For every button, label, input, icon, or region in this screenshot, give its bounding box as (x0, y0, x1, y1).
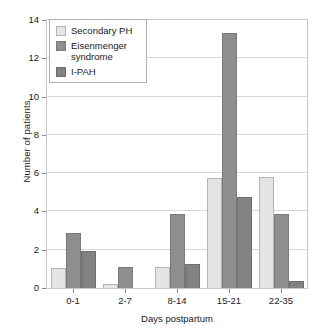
y-tick: 8 (0, 135, 46, 136)
x-tick: 0-1 (47, 289, 99, 303)
bar-group (203, 20, 255, 288)
bar-chart: Number of patients 02468101214 0-12-78-1… (0, 0, 315, 333)
x-tick-label: 0-1 (47, 295, 99, 306)
legend-swatch-icon (56, 67, 66, 77)
y-tick: 6 (0, 173, 46, 174)
x-tick-mark (229, 289, 230, 293)
y-tick: 14 (0, 20, 46, 21)
y-tick: 4 (0, 211, 46, 212)
bar[interactable] (170, 214, 185, 288)
y-tick: 0 (0, 288, 46, 289)
x-tick: 22-35 (255, 289, 307, 303)
x-tick-label: 2-7 (99, 295, 151, 306)
bar[interactable] (51, 268, 66, 288)
x-tick-mark (281, 289, 282, 293)
bar[interactable] (66, 233, 81, 288)
bar[interactable] (237, 197, 252, 288)
x-tick-label: 15-21 (203, 295, 255, 306)
y-tick: 12 (0, 58, 46, 59)
legend-swatch-icon (56, 26, 66, 36)
x-tick-label: 22-35 (255, 295, 307, 306)
y-tick-label: 8 (34, 129, 39, 140)
chart-legend: Secondary PHEisenmenger syndromeI-PAH (49, 19, 147, 83)
bar[interactable] (259, 177, 274, 288)
legend-item[interactable]: Secondary PH (56, 25, 141, 36)
bar[interactable] (289, 281, 304, 288)
y-tick: 2 (0, 250, 46, 251)
bar[interactable] (118, 267, 133, 288)
legend-swatch-icon (56, 41, 66, 51)
y-tick-label: 0 (34, 282, 39, 293)
legend-item[interactable]: Eisenmenger syndrome (56, 40, 141, 62)
legend-item[interactable]: I-PAH (56, 66, 141, 77)
y-tick-label: 4 (34, 205, 39, 216)
x-tick-mark (73, 289, 74, 293)
x-tick-mark (125, 289, 126, 293)
x-axis-title: Days postpartum (47, 313, 307, 324)
legend-label: Secondary PH (71, 25, 132, 36)
bar[interactable] (103, 284, 118, 288)
bar[interactable] (207, 178, 222, 288)
bar-group (255, 20, 307, 288)
legend-label: I-PAH (71, 66, 96, 77)
y-tick-label: 2 (34, 244, 39, 255)
bar[interactable] (274, 214, 289, 288)
y-tick-label: 6 (34, 167, 39, 178)
x-tick-label: 8-14 (151, 295, 203, 306)
x-tick: 8-14 (151, 289, 203, 303)
y-tick-label: 14 (28, 14, 39, 25)
x-tick: 2-7 (99, 289, 151, 303)
x-tick: 15-21 (203, 289, 255, 303)
bar[interactable] (222, 33, 237, 288)
y-tick-label: 10 (28, 91, 39, 102)
bar[interactable] (155, 267, 170, 288)
x-axis-ticks: 0-12-78-1415-2122-35 (47, 289, 307, 303)
y-axis-ticks: 02468101214 (0, 19, 46, 289)
y-tick-label: 12 (28, 52, 39, 63)
bar-group (151, 20, 203, 288)
y-tick: 10 (0, 97, 46, 98)
legend-label: Eisenmenger syndrome (71, 40, 127, 62)
bar[interactable] (81, 251, 96, 288)
bar[interactable] (185, 264, 200, 288)
x-tick-mark (177, 289, 178, 293)
